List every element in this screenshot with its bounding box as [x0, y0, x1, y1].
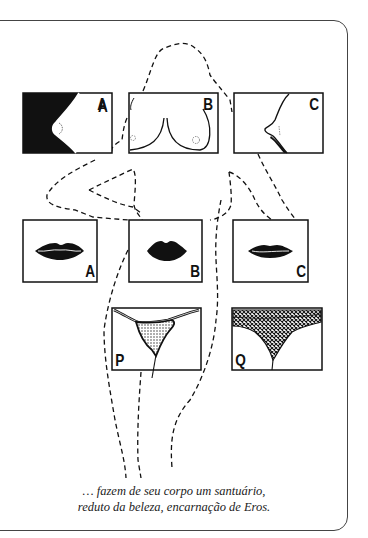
breast-label-c: C — [309, 95, 319, 115]
caption-line-2: reduto da beleza, encarnação de Eros. — [0, 499, 358, 515]
breast-label-b: B — [203, 95, 213, 115]
pelvis-label-p: P — [115, 351, 124, 371]
breast-label-a: A — [97, 95, 107, 115]
pelvis-panel-p — [112, 308, 201, 378]
lips-label-c: C — [296, 262, 306, 282]
caption-line-1: … fazem de seu corpo um santuário, — [0, 483, 358, 499]
lips-label-b: B — [190, 262, 200, 282]
pelvis-label-q: Q — [235, 351, 246, 371]
lips-label-a: A — [85, 262, 95, 282]
body-silhouette-illustration: A — [0, 0, 368, 538]
